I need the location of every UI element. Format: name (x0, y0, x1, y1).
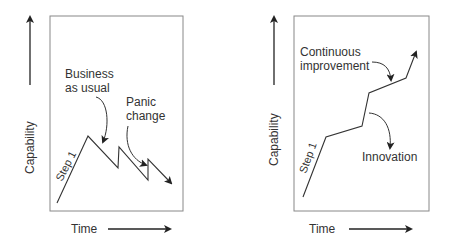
left-annotation-change: change (126, 109, 166, 123)
right-continuous-arrow-icon (372, 62, 391, 80)
left-panel: Capability Step 1 Business as usual Pani… (23, 16, 183, 236)
right-step-label: Step 1 (297, 141, 319, 175)
right-y-axis-label: Capability (267, 113, 281, 166)
right-annotation-improvement: improvement (300, 59, 370, 73)
right-panel: Capability Step 1 Continuous improvement… (267, 16, 429, 236)
left-y-axis-label: Capability (23, 121, 37, 174)
right-x-axis-label: Time (309, 222, 336, 236)
left-annotation-as-usual: as usual (65, 81, 110, 95)
left-x-axis-label: Time (71, 222, 98, 236)
right-annotation-continuous: Continuous (300, 45, 361, 59)
right-innovation-arrow-icon (369, 113, 390, 148)
right-annotation-innovation: Innovation (362, 150, 417, 164)
left-business-arrow-icon (96, 97, 107, 142)
capability-diagrams: Capability Step 1 Business as usual Pani… (0, 0, 450, 246)
right-capability-line (303, 52, 416, 197)
left-annotation-panic: Panic (126, 95, 156, 109)
left-capability-line (57, 136, 171, 203)
left-annotation-business: Business (65, 67, 114, 81)
